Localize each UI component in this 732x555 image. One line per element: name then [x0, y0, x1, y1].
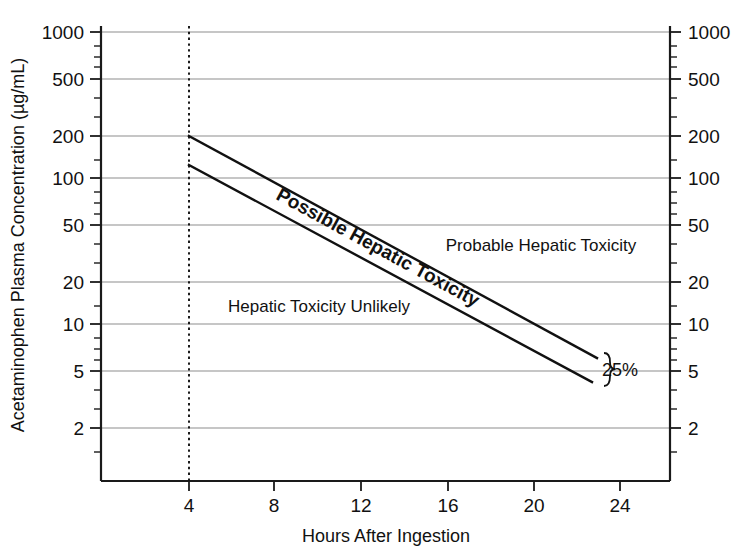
y-label-right-4: 50	[688, 215, 709, 236]
y-label-right-7: 5	[688, 361, 699, 382]
chart-canvas: 1000 500 200 100 50 20 10 5 2 1000 500 2…	[0, 0, 732, 555]
y-label-right-5: 20	[688, 272, 709, 293]
region-label-probable-hepatic-toxicity: Probable Hepatic Toxicity	[446, 236, 637, 255]
y-label-left-8: 2	[73, 418, 84, 439]
chart-background	[0, 0, 732, 555]
y-label-left-3: 100	[52, 168, 84, 189]
y-label-right-0: 1000	[688, 22, 730, 43]
y-label-left-6: 10	[63, 314, 84, 335]
y-label-left-4: 50	[63, 215, 84, 236]
x-label-0: 4	[184, 495, 195, 516]
y-label-right-6: 10	[688, 314, 709, 335]
y-label-left-1: 500	[52, 69, 84, 90]
x-label-5: 24	[609, 495, 631, 516]
y-label-left-7: 5	[73, 361, 84, 382]
x-label-3: 16	[437, 495, 458, 516]
y-label-right-3: 100	[688, 168, 720, 189]
x-label-1: 8	[269, 495, 280, 516]
y-label-right-8: 2	[688, 418, 699, 439]
nomogram-chart: 1000 500 200 100 50 20 10 5 2 1000 500 2…	[0, 0, 732, 555]
y-label-right-1: 500	[688, 69, 720, 90]
y-label-left-0: 1000	[42, 22, 84, 43]
annotation-25-percent: 25%	[602, 360, 638, 380]
y-label-left-2: 200	[52, 126, 84, 147]
region-label-hepatic-toxicity-unlikely: Hepatic Toxicity Unlikely	[228, 297, 411, 316]
x-label-2: 12	[350, 495, 371, 516]
y-label-right-2: 200	[688, 126, 720, 147]
y-label-left-5: 20	[63, 272, 84, 293]
x-axis-title: Hours After Ingestion	[302, 526, 470, 546]
x-label-4: 20	[523, 495, 544, 516]
y-axis-title: Acetaminophen Plasma Concentration (µg/m…	[8, 58, 28, 433]
